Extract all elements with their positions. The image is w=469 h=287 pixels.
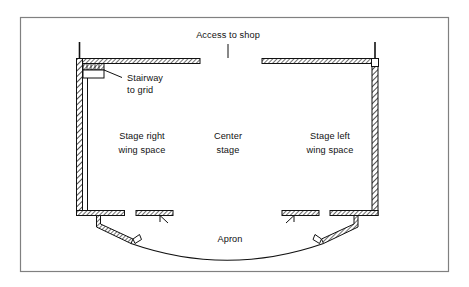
stairway-to-grid <box>83 64 104 79</box>
label-stage-left-line1: Stage left <box>310 131 350 141</box>
figure-root: Access to shop Stairway to grid Stage ri… <box>0 0 469 287</box>
label-stage-right-line2: wing space <box>118 145 166 155</box>
label-stage-right-line1: Stage right <box>119 131 165 141</box>
label-center-stage-line2: stage <box>217 145 240 155</box>
side-wall-right <box>372 42 379 216</box>
label-center-stage-line1: Center <box>214 131 242 141</box>
proscenium-wall-right <box>330 211 378 216</box>
stage-floor-plan-diagram: Access to shop Stairway to grid Stage ri… <box>0 0 469 287</box>
label-stage-left-line2: wing space <box>306 145 354 155</box>
label-access-to-shop: Access to shop <box>196 30 260 40</box>
upstage-wall-right <box>262 59 372 64</box>
side-wall-left <box>77 42 83 216</box>
label-stairway-to-grid-line1: Stairway <box>127 73 163 83</box>
label-stairway-to-grid-line2: to grid <box>127 85 153 95</box>
proscenium-wall-left <box>77 211 125 216</box>
side-wall-right-opening <box>372 59 379 67</box>
upstage-wall-left <box>82 59 200 64</box>
label-apron: Apron <box>217 234 242 244</box>
